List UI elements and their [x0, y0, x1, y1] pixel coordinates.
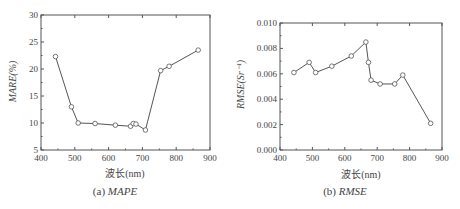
- data-point-marker: [378, 82, 383, 87]
- y-tick-label: 15: [29, 91, 39, 101]
- data-point-marker: [196, 48, 201, 53]
- y-tick-label: 0.010: [257, 18, 278, 28]
- y-tick-label: 0.000: [257, 145, 278, 155]
- data-point-marker: [113, 123, 118, 128]
- series-line: [294, 42, 431, 123]
- caption-name: RMSE: [339, 185, 367, 197]
- plot-frame: [280, 23, 442, 150]
- chart-caption: (b) RMSE: [230, 185, 460, 197]
- data-point-marker: [93, 121, 98, 126]
- y-tick-label: 0.008: [257, 43, 278, 53]
- y-tick-label: 0.002: [257, 120, 277, 130]
- x-tick-label: 600: [338, 153, 352, 163]
- caption-prefix: (a): [93, 185, 108, 197]
- chart-panel-rmse: 4005006007008009000.0000.0020.0040.0060.…: [230, 0, 460, 209]
- x-axis-label: 波长(nm): [331, 166, 391, 181]
- chart-panel-mape: 40050060070080090051015202530 MARE(%) 波长…: [0, 0, 230, 209]
- caption-name: MAPE: [108, 185, 137, 197]
- x-axis-label: 波长(nm): [95, 165, 155, 180]
- data-point-marker: [428, 121, 433, 126]
- x-tick-label: 700: [370, 153, 384, 163]
- x-tick-label: 900: [203, 153, 217, 163]
- data-point-marker: [76, 121, 81, 126]
- data-point-marker: [53, 54, 58, 59]
- plot-frame: [41, 15, 210, 150]
- chart-caption: (a) MAPE: [0, 185, 230, 197]
- x-tick-label: 800: [169, 153, 183, 163]
- data-point-marker: [366, 60, 371, 65]
- data-point-marker: [313, 70, 318, 75]
- data-point-marker: [307, 60, 312, 65]
- data-point-marker: [69, 105, 74, 110]
- data-point-marker: [158, 68, 163, 73]
- y-tick-label: 0.004: [257, 94, 278, 104]
- y-axis-label: MARE(%): [7, 52, 18, 112]
- data-point-marker: [167, 64, 172, 69]
- data-point-marker: [143, 128, 148, 133]
- x-tick-label: 700: [136, 153, 150, 163]
- x-tick-label: 500: [306, 153, 320, 163]
- x-tick-label: 600: [102, 153, 116, 163]
- x-tick-label: 500: [68, 153, 82, 163]
- data-point-marker: [292, 70, 297, 75]
- data-point-marker: [400, 73, 405, 78]
- series-line: [56, 50, 199, 130]
- caption-prefix: (b): [323, 185, 339, 197]
- y-tick-label: 30: [29, 10, 39, 20]
- y-tick-label: 0.006: [257, 69, 278, 79]
- data-point-marker: [392, 82, 397, 87]
- data-point-marker: [364, 40, 369, 45]
- data-point-marker: [369, 78, 374, 83]
- x-tick-label: 900: [435, 153, 449, 163]
- y-axis-label: RMSE(Sr⁻¹): [235, 52, 246, 118]
- y-tick-label: 20: [29, 64, 39, 74]
- data-point-marker: [134, 122, 139, 127]
- y-tick-label: 25: [29, 37, 39, 47]
- data-point-marker: [349, 54, 354, 59]
- y-tick-label: 5: [34, 145, 39, 155]
- x-tick-label: 800: [403, 153, 417, 163]
- data-point-marker: [330, 64, 335, 69]
- y-tick-label: 10: [29, 118, 39, 128]
